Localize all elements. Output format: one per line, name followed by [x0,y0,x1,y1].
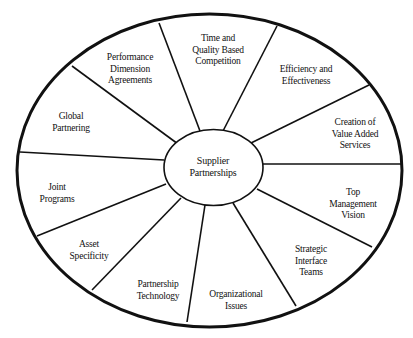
segment-label-line: Services [332,140,379,152]
segment-label-line: Performance [107,52,153,64]
segment-label-line: Organizational [209,289,262,301]
segment-label-joint-programs: JointPrograms [40,182,75,205]
segment-label-value-added: Creation ofValue AddedServices [332,117,379,152]
segment-label-time-quality: Time andQuality BasedCompetition [192,33,244,68]
center-label-line-2: Partnerships [189,167,236,179]
segment-label-efficiency: Efficiency andEffectiveness [280,64,333,87]
segment-label-line: Teams [295,267,327,279]
segment-label-line: Strategic [295,244,327,256]
segment-label-line: Agreements [107,75,153,87]
segment-label-line: Dimension [107,63,153,75]
segment-label-asset-specificity: AssetSpecificity [70,239,109,262]
spoke-line [20,152,164,160]
segment-label-line: Creation of [332,117,379,129]
segment-label-line: Asset [70,239,109,251]
segment-label-top-management: TopManagementVision [329,187,377,222]
segment-label-line: Efficiency and [280,64,333,76]
segment-label-line: Vision [329,210,377,222]
center-label-supplier-partnerships: Supplier Partnerships [189,155,236,179]
segment-label-line: Top [329,187,377,199]
segment-label-line: Quality Based [192,44,244,56]
segment-label-global-partnering: GlobalPartnering [52,111,90,134]
segment-label-organizational: OrganizationalIssues [209,289,262,312]
segment-label-line: Partnering [52,122,90,134]
segment-label-strategic-interface: StrategicInterfaceTeams [295,244,327,279]
segment-label-line: Issues [209,300,262,312]
segment-label-partnership-technology: PartnershipTechnology [137,279,180,302]
segment-label-line: Value Added [332,128,379,140]
segment-label-line: Partnership [137,279,180,291]
center-label-line-1: Supplier [189,155,236,167]
segment-label-line: Programs [40,193,75,205]
segment-label-line: Interface [295,255,327,267]
segment-label-performance-dimension: PerformanceDimensionAgreements [107,52,153,87]
segment-label-line: Specificity [70,250,109,262]
segment-label-line: Technology [137,290,180,302]
segment-label-line: Management [329,198,377,210]
segment-label-line: Effectiveness [280,75,333,87]
segment-label-line: Global [52,111,90,123]
segment-label-line: Joint [40,182,75,194]
segment-label-line: Competition [192,56,244,68]
segment-label-line: Time and [192,33,244,45]
spoke-line [187,205,205,322]
